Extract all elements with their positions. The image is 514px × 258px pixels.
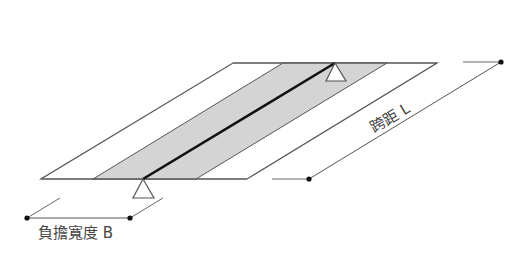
width-label: 負擔寬度 B bbox=[38, 224, 113, 242]
span-end-dot-icon bbox=[306, 176, 311, 181]
width-right-dot-icon bbox=[127, 215, 132, 220]
bottom-support-triangle-icon bbox=[133, 179, 154, 198]
width-dimension bbox=[24, 198, 163, 221]
span-start-dot-icon bbox=[498, 59, 503, 64]
slab-diagram: 跨距 L 負擔寬度 B bbox=[0, 0, 514, 258]
width-left-dot-icon bbox=[24, 215, 29, 220]
span-label: 跨距 L bbox=[367, 99, 414, 137]
